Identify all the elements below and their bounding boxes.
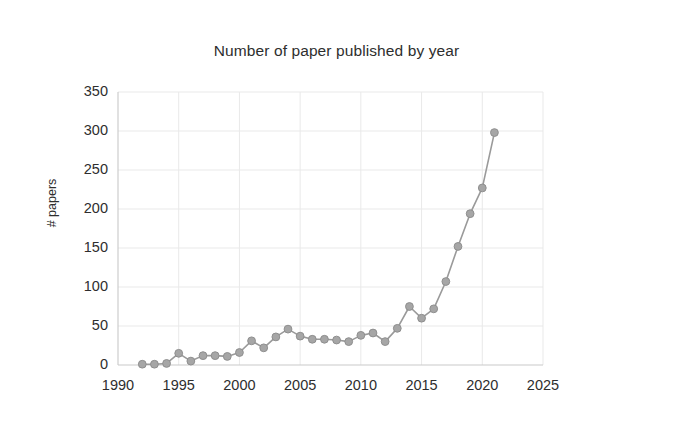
data-point: [454, 243, 462, 251]
data-point: [284, 325, 292, 333]
data-point: [491, 129, 499, 137]
data-point: [223, 353, 231, 361]
data-point: [175, 349, 183, 357]
data-point: [236, 349, 244, 357]
data-point: [430, 305, 438, 313]
data-point: [478, 184, 486, 192]
data-point: [211, 352, 219, 360]
data-point: [369, 329, 377, 337]
axis-lines: [118, 92, 543, 365]
data-point: [406, 303, 414, 311]
data-point: [151, 360, 159, 368]
data-point: [260, 344, 268, 352]
data-point: [163, 360, 171, 368]
data-point: [466, 210, 474, 218]
data-point: [248, 337, 256, 345]
chart-figure: Number of paper published by year # pape…: [0, 0, 673, 421]
data-point: [357, 331, 365, 339]
data-point: [272, 333, 280, 341]
data-point: [308, 335, 316, 343]
data-point: [333, 336, 341, 344]
data-point: [187, 357, 195, 365]
data-point: [393, 324, 401, 332]
data-point: [321, 335, 329, 343]
data-point: [381, 338, 389, 346]
data-point: [296, 332, 304, 340]
data-point: [345, 338, 353, 346]
data-point: [442, 278, 450, 286]
data-point: [199, 352, 207, 360]
data-point: [418, 314, 426, 322]
plot-canvas: [0, 0, 673, 421]
data-point: [138, 360, 146, 368]
grid-lines: [118, 92, 543, 365]
